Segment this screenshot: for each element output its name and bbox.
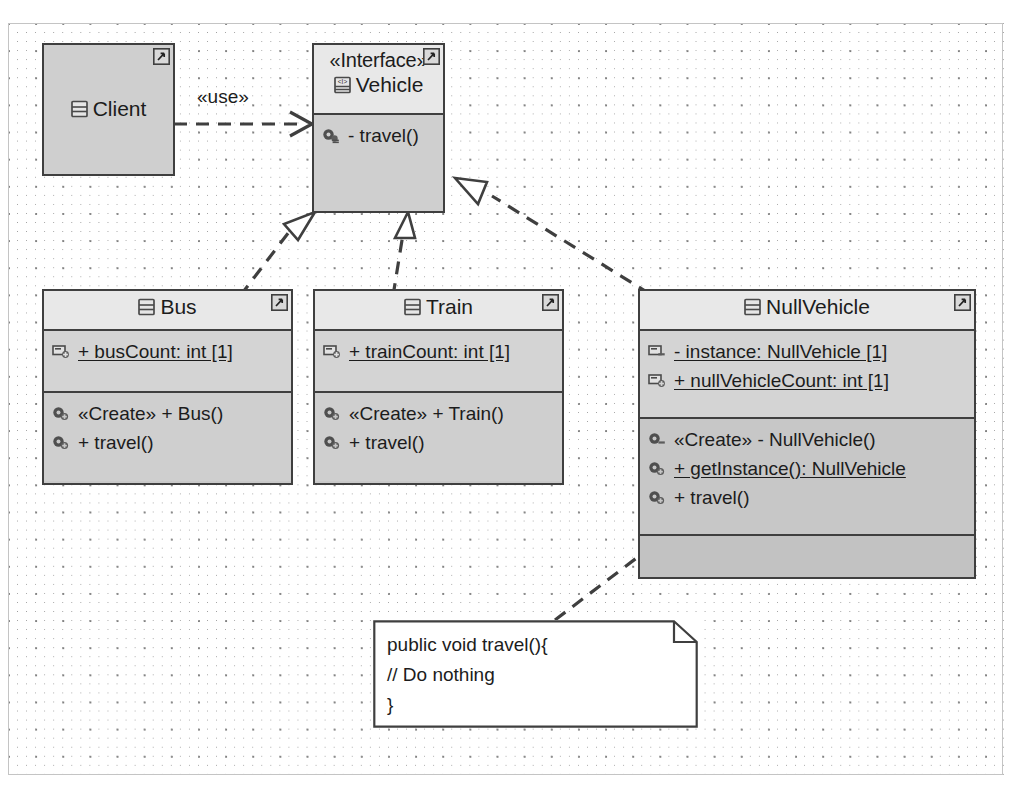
attribute-row[interactable]: + nullVehicleCount: int [1] xyxy=(648,366,968,395)
class-icon xyxy=(404,298,421,316)
attribute-row[interactable]: + busCount: int [1] xyxy=(52,337,285,366)
operation-icon xyxy=(648,461,668,477)
class-name-vehicle: Vehicle xyxy=(356,72,424,98)
uml-class-client[interactable]: Client xyxy=(42,43,175,176)
attribute-row[interactable]: + trainCount: int [1] xyxy=(323,337,556,366)
operation-label: «Create» + Train() xyxy=(349,399,504,428)
class-title-vehicle: <I> Vehicle xyxy=(318,72,439,98)
class-icon xyxy=(71,100,88,118)
class-title-bus: Bus xyxy=(48,294,287,320)
operation-row[interactable]: - travel() xyxy=(322,121,437,150)
attribute-icon xyxy=(648,344,668,360)
connector-bus-realizes-vehicle xyxy=(240,212,315,296)
shortcut-icon xyxy=(271,294,288,311)
connector-client-uses-vehicle xyxy=(174,112,312,136)
uml-diagram-canvas[interactable]: Vehicle : dependency, open arrow --> «us… xyxy=(0,0,1014,795)
class-name-bus: Bus xyxy=(160,294,196,320)
operations-compartment-vehicle: - travel() xyxy=(314,115,443,211)
note-line: public void travel(){ xyxy=(387,630,688,660)
attribute-label: + nullVehicleCount: int [1] xyxy=(674,366,889,395)
shortcut-icon xyxy=(954,294,971,311)
operation-label: - travel() xyxy=(348,121,419,150)
shortcut-icon xyxy=(542,294,559,311)
class-title-train: Train xyxy=(319,294,558,320)
operation-row[interactable]: «Create» - NullVehicle() xyxy=(648,425,968,454)
class-name-client: Client xyxy=(93,96,147,122)
attribute-label: - instance: NullVehicle [1] xyxy=(674,337,887,366)
operations-compartment-bus: «Create» + Bus() + travel() xyxy=(44,393,291,481)
svg-text:<I>: <I> xyxy=(337,78,347,85)
attribute-label: + trainCount: int [1] xyxy=(349,337,510,366)
operations-compartment-train: «Create» + Train() + travel() xyxy=(315,393,562,481)
class-header-bus: Bus xyxy=(44,291,291,331)
class-name-train: Train xyxy=(426,294,473,320)
note-text: public void travel(){ // Do nothing } xyxy=(383,628,688,720)
attributes-compartment-bus: + busCount: int [1] xyxy=(44,331,291,393)
class-icon xyxy=(138,298,155,316)
note-line: } xyxy=(387,690,688,720)
operation-label: «Create» + Bus() xyxy=(78,399,223,428)
operation-row[interactable]: + travel() xyxy=(323,428,556,457)
class-title-client: Client xyxy=(71,96,147,122)
class-header-client: Client xyxy=(44,45,173,174)
uml-class-vehicle[interactable]: «Interface» <I> Vehicle xyxy=(312,43,445,213)
operation-label: + travel() xyxy=(674,483,750,512)
operations-compartment-nullvehicle: «Create» - NullVehicle() + getInstance()… xyxy=(640,419,974,536)
operation-label: + travel() xyxy=(78,428,154,457)
connector-nullvehicle-realizes-vehicle xyxy=(455,178,650,294)
note-line: // Do nothing xyxy=(387,660,688,690)
class-icon xyxy=(744,298,761,316)
class-name-nullvehicle: NullVehicle xyxy=(766,294,870,320)
operation-row[interactable]: + travel() xyxy=(648,483,968,512)
operation-icon xyxy=(323,435,343,451)
connector-train-realizes-vehicle xyxy=(393,212,415,296)
operation-icon xyxy=(648,490,668,506)
operation-label: «Create» - NullVehicle() xyxy=(674,425,876,454)
attribute-row[interactable]: - instance: NullVehicle [1] xyxy=(648,337,968,366)
shortcut-icon xyxy=(423,48,440,65)
operation-label: + travel() xyxy=(349,428,425,457)
connector-label-use: «use» xyxy=(197,86,249,108)
shortcut-icon xyxy=(153,48,170,65)
class-title-nullvehicle: NullVehicle xyxy=(644,294,970,320)
class-header-vehicle: «Interface» <I> Vehicle xyxy=(314,45,443,115)
operation-icon xyxy=(52,435,72,451)
attribute-label: + busCount: int [1] xyxy=(78,337,233,366)
attributes-compartment-nullvehicle: - instance: NullVehicle [1] + nullVehicl… xyxy=(640,331,974,419)
operation-icon xyxy=(322,128,342,144)
attribute-icon xyxy=(52,344,72,360)
attribute-icon xyxy=(648,373,668,389)
attribute-icon xyxy=(323,344,343,360)
operation-icon xyxy=(323,406,343,422)
interface-icon: <I> xyxy=(334,76,351,94)
empty-compartment-nullvehicle xyxy=(640,536,974,577)
operation-row[interactable]: + getInstance(): NullVehicle xyxy=(648,454,968,483)
operation-icon xyxy=(648,432,668,448)
uml-note-travel[interactable]: public void travel(){ // Do nothing } xyxy=(373,620,698,728)
uml-class-train[interactable]: Train + trainCount: int [1] xyxy=(313,289,564,485)
operation-row[interactable]: «Create» + Bus() xyxy=(52,399,285,428)
operation-row[interactable]: «Create» + Train() xyxy=(323,399,556,428)
class-header-nullvehicle: NullVehicle xyxy=(640,291,974,331)
class-stereotype-vehicle: «Interface» xyxy=(318,48,439,72)
operation-row[interactable]: + travel() xyxy=(52,428,285,457)
uml-class-nullvehicle[interactable]: NullVehicle - instance: NullVehicle [1] xyxy=(638,289,976,579)
operation-icon xyxy=(52,406,72,422)
class-header-train: Train xyxy=(315,291,562,331)
uml-class-bus[interactable]: Bus + busCount: int [1] xyxy=(42,289,293,485)
operation-label: + getInstance(): NullVehicle xyxy=(674,454,906,483)
attributes-compartment-train: + trainCount: int [1] xyxy=(315,331,562,393)
